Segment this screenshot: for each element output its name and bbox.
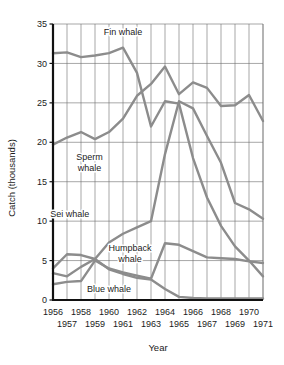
x-tick-label-top: 1960	[99, 307, 119, 317]
x-tick-label-top: 1958	[71, 307, 91, 317]
chart-canvas: 05101520253035 1956195819601962196419661…	[0, 0, 284, 365]
series-label-blue-whale: Blue whale	[87, 284, 131, 294]
x-tick-label-bottom: 1959	[85, 319, 105, 329]
x-tick-label-bottom: 1967	[197, 319, 217, 329]
x-tick-label-bottom: 1961	[113, 319, 133, 329]
x-axis-title: Year	[148, 342, 167, 353]
x-tick-label-bottom: 1971	[253, 319, 273, 329]
y-tick-label: 25	[37, 98, 47, 108]
x-tick-label-top: 1966	[183, 307, 203, 317]
series-label-sperm-whale: whale	[77, 163, 102, 173]
y-tick-label: 15	[37, 177, 47, 187]
x-tick-label-top: 1962	[127, 307, 147, 317]
x-tick-label-top: 1970	[239, 307, 259, 317]
x-tick-label-top: 1968	[211, 307, 231, 317]
y-tick-label: 35	[37, 19, 47, 29]
y-tick-label: 0	[42, 295, 47, 305]
series-label-fin-whale: Fin whale	[104, 27, 143, 37]
series-label-humpback-whale: whale	[117, 254, 142, 264]
x-tick-label-top: 1956	[43, 307, 63, 317]
y-tick-label: 20	[37, 137, 47, 147]
y-tick-label: 30	[37, 59, 47, 69]
series-label-sperm-whale: Sperm	[76, 152, 103, 162]
x-tick-label-bottom: 1965	[169, 319, 189, 329]
y-axis-title: Catch (thousands)	[6, 139, 17, 217]
y-tick-label: 5	[42, 256, 47, 266]
y-tick-label: 10	[37, 216, 47, 226]
whale-catch-line-chart: 05101520253035 1956195819601962196419661…	[0, 0, 284, 365]
x-tick-label-top: 1964	[155, 307, 175, 317]
series-label-sei-whale: Sei whale	[50, 209, 89, 219]
x-tick-label-bottom: 1963	[141, 319, 161, 329]
series-label-humpback-whale: Humpback	[108, 243, 152, 253]
x-tick-label-bottom: 1957	[57, 319, 77, 329]
x-tick-label-bottom: 1969	[225, 319, 245, 329]
